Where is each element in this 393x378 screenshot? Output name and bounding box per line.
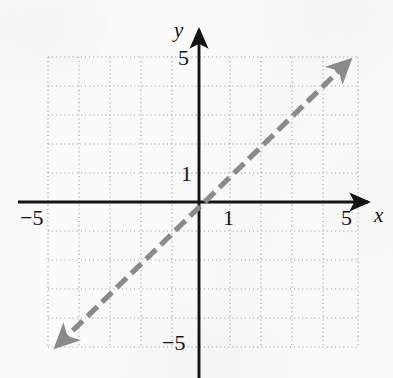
y-axis-label: y — [174, 20, 183, 41]
x-tick-label-5: 5 — [341, 207, 352, 229]
y-tick-label-5: 5 — [178, 47, 189, 69]
coordinate-plane — [0, 0, 393, 378]
x-tick-label-neg5: −5 — [20, 207, 43, 229]
y-tick-label-neg5: −5 — [162, 332, 185, 354]
graph-figure: y x 5 1 −5 −5 1 5 — [0, 0, 393, 378]
function-line-y-equals-x — [58, 62, 348, 345]
y-tick-label-1: 1 — [181, 163, 192, 185]
x-tick-label-1: 1 — [223, 207, 234, 229]
x-axis-label: x — [374, 205, 383, 226]
